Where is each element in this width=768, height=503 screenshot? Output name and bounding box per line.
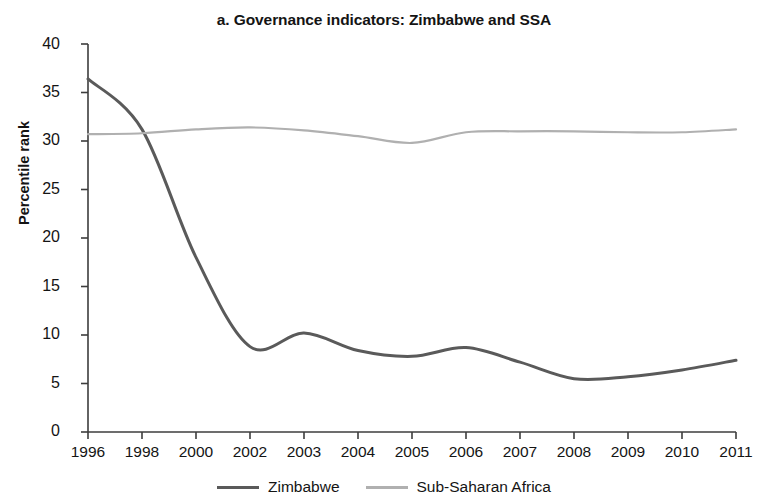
x-axis-ticks: [88, 432, 736, 439]
series-line-sub-saharan-africa: [88, 127, 736, 143]
plot-area: [0, 0, 768, 503]
data-series-group: [88, 79, 736, 380]
axis-lines: [88, 44, 736, 432]
y-axis-ticks: [81, 44, 88, 432]
legend-label-sub-saharan-africa: Sub-Saharan Africa: [417, 478, 551, 496]
chart-legend: Zimbabwe Sub-Saharan Africa: [0, 478, 768, 496]
chart-figure: a. Governance indicators: Zimbabwe and S…: [0, 0, 768, 503]
legend-swatch-zimbabwe: [217, 486, 259, 489]
legend-label-zimbabwe: Zimbabwe: [268, 478, 340, 496]
legend-swatch-sub-saharan-africa: [366, 486, 408, 489]
legend-item-sub-saharan-africa[interactable]: Sub-Saharan Africa: [366, 478, 551, 496]
series-line-zimbabwe: [88, 79, 736, 380]
legend-item-zimbabwe[interactable]: Zimbabwe: [217, 478, 340, 496]
